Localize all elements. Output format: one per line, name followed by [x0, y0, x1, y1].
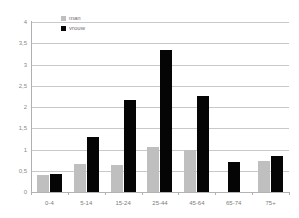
- bar-vrouw-15-24: [124, 100, 136, 192]
- bars-layer: [31, 22, 289, 192]
- x-tick-mark: [142, 192, 143, 195]
- x-tick-label-5-14: 5-14: [68, 199, 105, 207]
- legend-swatch-man: [61, 16, 66, 21]
- legend-label-vrouw: vrouw: [69, 25, 85, 32]
- bar-man-5-14: [74, 164, 86, 192]
- bar-vrouw-75+: [271, 156, 283, 192]
- x-tick-label-25-44: 25-44: [142, 199, 179, 207]
- bar-man-45-64: [184, 150, 196, 192]
- x-tick-label-65-74: 65-74: [215, 199, 252, 207]
- legend-swatch-vrouw: [61, 26, 66, 31]
- bar-vrouw-25-44: [160, 50, 172, 192]
- x-tick-label-45-64: 45-64: [178, 199, 215, 207]
- x-tick-mark: [68, 192, 69, 195]
- x-tick-mark: [252, 192, 253, 195]
- y-tick-label: 0: [24, 189, 27, 195]
- x-axis-tick-labels: 0-45-1415-2425-4445-6465-7475+: [31, 192, 289, 218]
- legend: manvrouw: [61, 14, 109, 34]
- x-tick-label-75+: 75+: [252, 199, 289, 207]
- bar-man-15-24: [111, 165, 123, 192]
- bar-vrouw-45-64: [197, 96, 209, 192]
- bar-group: [68, 22, 105, 192]
- bar-group: [31, 22, 68, 192]
- y-tick-label: 4: [24, 19, 27, 25]
- y-tick-label: 0,5: [19, 168, 27, 174]
- x-tick-mark: [31, 192, 32, 195]
- bar-group: [142, 22, 179, 192]
- y-tick-label: 2,5: [19, 83, 27, 89]
- legend-item-vrouw[interactable]: vrouw: [61, 24, 109, 33]
- bar-group: [252, 22, 289, 192]
- y-tick-label: 3: [24, 62, 27, 68]
- x-tick-mark: [215, 192, 216, 195]
- bar-man-75+: [258, 161, 270, 192]
- y-tick-label: 1,5: [19, 125, 27, 131]
- bar-man-0-4: [37, 175, 49, 192]
- bar-group: [105, 22, 142, 192]
- y-tick-label: 2: [24, 104, 27, 110]
- x-tick-label-0-4: 0-4: [31, 199, 68, 207]
- bar-man-25-44: [147, 147, 159, 192]
- x-tick-label-15-24: 15-24: [105, 199, 142, 207]
- y-axis-tick-labels: 00,511,522,533,54: [0, 0, 27, 218]
- x-tick-mark: [105, 192, 106, 195]
- legend-label-man: man: [69, 15, 81, 22]
- bar-vrouw-65-74: [228, 162, 240, 192]
- bar-vrouw-5-14: [87, 137, 99, 192]
- x-tick-mark: [289, 192, 290, 195]
- bar-vrouw-0-4: [50, 174, 62, 192]
- bar-chart: 00,511,522,533,54 0-45-1415-2425-4445-64…: [0, 0, 299, 218]
- y-tick-label: 1: [24, 147, 27, 153]
- x-tick-mark: [178, 192, 179, 195]
- y-tick-label: 3,5: [19, 40, 27, 46]
- legend-item-man[interactable]: man: [61, 14, 109, 23]
- bar-group: [215, 22, 252, 192]
- bar-group: [178, 22, 215, 192]
